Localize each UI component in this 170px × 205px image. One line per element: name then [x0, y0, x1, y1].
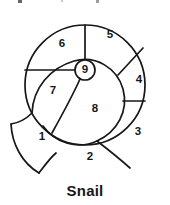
figure-caption: Snail	[0, 181, 170, 200]
segment-label-5: 5	[107, 28, 114, 40]
segment-label-3: 3	[135, 125, 141, 137]
segment-label-8: 8	[92, 102, 99, 114]
segment-label-1: 1	[39, 130, 46, 142]
segment-label-4: 4	[136, 73, 143, 85]
snail-shell-diagram: 1 2 3 4 5 6 7 8 9	[0, 2, 170, 180]
segment-label-6: 6	[59, 37, 65, 49]
divider-2-3	[97, 141, 130, 168]
segment-label-2: 2	[87, 150, 93, 162]
figure-page: 1 2 3 4 5 6 7 8 9 Snail	[0, 0, 170, 205]
segment-label-9: 9	[82, 63, 88, 75]
segment-label-7: 7	[50, 84, 56, 96]
